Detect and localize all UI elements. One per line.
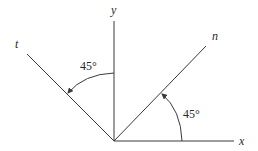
n-axis-label: n [212,29,218,43]
angle-arc-y-to-t [68,73,114,93]
t-axis [27,54,114,141]
x-axis-label: x [238,134,245,148]
angle-label-y-to-t: 45° [80,59,97,73]
angle-label-x-to-n: 45° [183,107,200,121]
y-axis-label: y [110,3,117,17]
angle-arc-x-to-n [162,94,182,141]
n-axis [114,46,206,141]
t-axis-label: t [15,37,19,51]
rotated-axes-diagram: y x n t 45° 45° [0,0,258,151]
